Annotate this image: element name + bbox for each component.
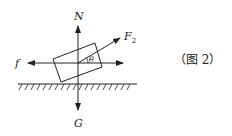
label-f2: F2 xyxy=(123,30,136,45)
free-body-diagram: N G f F2 θ （图 2） xyxy=(0,0,232,136)
label-f: f xyxy=(14,57,21,70)
label-g: G xyxy=(74,117,83,130)
applied-force-f2-arrow xyxy=(78,38,120,63)
angle-arc xyxy=(87,58,88,63)
label-theta: θ xyxy=(89,55,94,64)
label-n: N xyxy=(73,10,84,23)
figure-caption: （图 2） xyxy=(174,53,221,67)
